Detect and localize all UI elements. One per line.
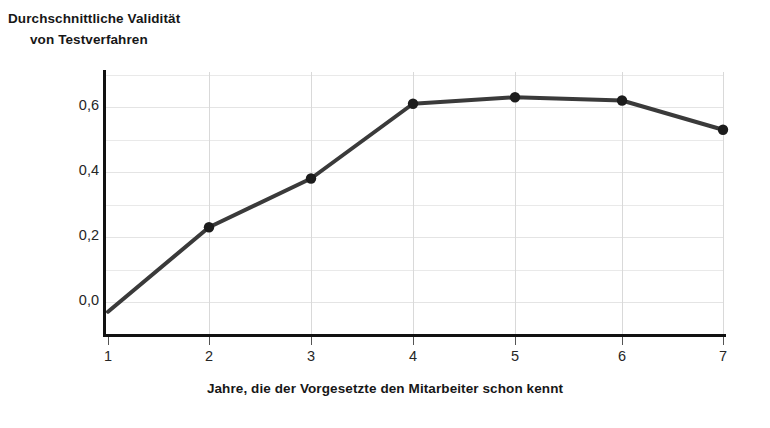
- y-axis-tick-labels: 0,00,20,40,6: [0, 0, 99, 428]
- x-axis-tick-label: 6: [602, 348, 642, 364]
- x-axis-tick-label: 1: [88, 348, 128, 364]
- x-axis-tick-mark: [622, 337, 623, 345]
- data-series-line: [106, 72, 724, 335]
- x-axis-tick-mark: [515, 337, 516, 345]
- x-axis-tick-mark: [413, 337, 414, 345]
- y-axis-tick-label: 0,2: [79, 227, 99, 243]
- y-axis-tick-label: 0,6: [79, 97, 99, 113]
- x-axis-title: Jahre, die der Vorgesetzte den Mitarbeit…: [0, 381, 770, 396]
- x-axis-tick-label: 3: [291, 348, 331, 364]
- data-point-marker: [718, 125, 728, 135]
- x-axis-tick-mark: [209, 337, 210, 345]
- x-axis-tick-mark: [108, 337, 109, 345]
- chart-container: Durchschnittliche Validität von Testverf…: [0, 0, 770, 428]
- x-axis-tick-mark: [311, 337, 312, 345]
- y-axis-tick-label: 0,0: [79, 292, 99, 308]
- series-polyline: [108, 97, 723, 312]
- data-point-marker: [204, 222, 214, 232]
- data-point-marker: [510, 92, 520, 102]
- x-axis-tick-label: 5: [495, 348, 535, 364]
- data-point-marker: [408, 99, 418, 109]
- x-axis-line: [104, 334, 726, 337]
- x-axis-tick-label: 2: [189, 348, 229, 364]
- data-point-marker: [617, 95, 627, 105]
- x-axis-tick-label: 7: [703, 348, 743, 364]
- x-axis-tick-mark: [723, 337, 724, 345]
- y-axis-tick-label: 0,4: [79, 162, 99, 178]
- y-axis-line: [103, 70, 106, 337]
- data-point-marker: [306, 173, 316, 183]
- x-axis-tick-label: 4: [393, 348, 433, 364]
